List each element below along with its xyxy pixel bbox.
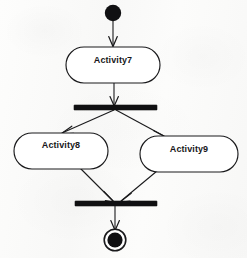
join-bar[interactable] — [75, 201, 157, 206]
fork-bar[interactable] — [74, 105, 157, 110]
action-node-activity7[interactable] — [66, 47, 160, 83]
diagram-vector-layer — [0, 0, 247, 258]
edge-activity7-to-fork[interactable] — [110, 83, 118, 106]
edge-activity8-to-join[interactable] — [80, 168, 114, 202]
action-node-activity7-label: Activity7 — [94, 55, 132, 65]
action-node-activity8-label: Activity8 — [42, 140, 80, 150]
final-node-core — [107, 232, 122, 247]
action-node-activity8[interactable] — [14, 133, 108, 169]
edge-initial-to-activity7[interactable] — [109, 21, 118, 47]
edge-line — [62, 110, 114, 133]
action-node-activity9-label: Activity9 — [170, 144, 208, 154]
edge-fork-to-activity9[interactable] — [116, 110, 166, 138]
action-node-activity9[interactable] — [140, 136, 238, 172]
initial-node[interactable] — [105, 5, 121, 21]
activity-diagram-canvas: Activity7 Activity8 Activity9 — [0, 0, 247, 258]
final-node[interactable] — [104, 229, 126, 251]
edge-fork-to-activity8[interactable] — [60, 110, 114, 134]
edge-join-to-final[interactable] — [111, 206, 120, 230]
edge-activity9-to-join[interactable] — [120, 171, 157, 202]
